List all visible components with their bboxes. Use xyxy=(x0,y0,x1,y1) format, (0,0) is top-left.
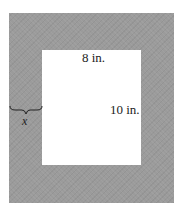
height-label: 10 in. xyxy=(110,103,140,116)
border-width-label: x xyxy=(22,115,27,127)
width-label: 8 in. xyxy=(82,51,105,64)
